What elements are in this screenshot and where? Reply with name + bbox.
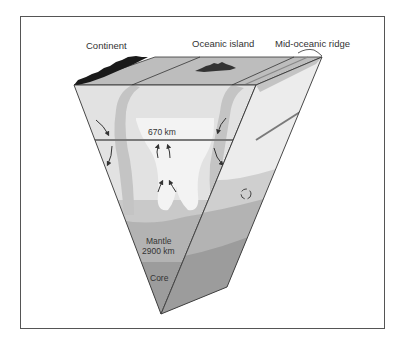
label-continent: Continent (86, 40, 127, 51)
label-mantle: Mantle (146, 236, 172, 246)
label-core: Core (150, 273, 169, 283)
label-670-km: 670 km (148, 127, 176, 137)
earth-structure-diagram: Continent Oceanic island Mid-oceanic rid… (0, 0, 400, 346)
label-oceanic-island: Oceanic island (192, 38, 254, 49)
label-mid-oceanic-ridge: Mid-oceanic ridge (275, 38, 350, 49)
ridge-spreading-arrows (298, 49, 322, 56)
label-mantle-depth: 2900 km (142, 246, 175, 256)
